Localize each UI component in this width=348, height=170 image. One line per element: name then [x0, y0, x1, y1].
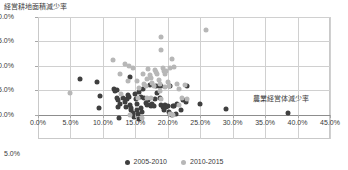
- data-point: [151, 104, 156, 109]
- data-point: [111, 58, 116, 63]
- x-axis-tick-label: 0.0%: [30, 119, 46, 127]
- x-axis-tick-label: 15.0%: [125, 119, 145, 127]
- data-point: [182, 83, 187, 88]
- x-axis-tick-label: 30.0%: [223, 119, 243, 127]
- y-axis-tickmark: [35, 66, 38, 67]
- y-axis-tickmark: [35, 17, 38, 18]
- data-point: [98, 93, 103, 98]
- data-point: [77, 76, 82, 81]
- plot-area: 農業経営体減少率: [38, 17, 330, 139]
- x-axis-tick-label: 20.0%: [158, 119, 178, 127]
- x-axis-tick-label: 40.0%: [288, 119, 308, 127]
- y-axis-tickmark: [35, 41, 38, 42]
- data-point: [172, 64, 177, 69]
- data-point: [185, 97, 190, 102]
- data-point: [159, 96, 164, 101]
- data-point: [170, 112, 175, 117]
- data-point: [134, 79, 139, 84]
- x-axis-tickmark: [38, 115, 39, 118]
- data-point: [96, 106, 101, 111]
- x-axis-tickmark: [298, 115, 299, 118]
- data-point: [112, 88, 117, 93]
- data-point: [143, 83, 148, 88]
- gridline-horizontal: [38, 17, 330, 18]
- data-point: [157, 88, 162, 93]
- data-point: [169, 57, 174, 62]
- data-point: [117, 116, 122, 121]
- x-axis-tickmark: [200, 115, 201, 118]
- data-point: [119, 92, 124, 97]
- data-point: [141, 71, 146, 76]
- x-axis-tickmark: [70, 115, 71, 118]
- legend-label: 2010-2015: [190, 158, 223, 166]
- legend-item-2010-2015[interactable]: 2010-2015: [181, 158, 223, 166]
- data-point: [146, 67, 151, 72]
- data-point: [130, 65, 135, 70]
- data-point: [128, 112, 133, 117]
- x-axis-tick-label: 25.0%: [190, 119, 210, 127]
- data-point: [159, 35, 164, 40]
- x-axis-tick-label: 45.0%: [320, 119, 340, 127]
- data-point: [137, 86, 142, 91]
- y-axis-tick-label: 0.0%: [0, 111, 14, 119]
- x-axis-tickmark: [330, 115, 331, 118]
- x-axis-tick-label: 5.0%: [62, 119, 78, 127]
- data-point: [286, 110, 291, 115]
- data-point: [204, 28, 209, 33]
- data-point: [157, 81, 162, 86]
- y-axis-tick-label: 5.0%: [0, 86, 14, 94]
- data-point: [177, 87, 182, 92]
- y-axis-tick-label-below-axis: 5.0%: [4, 150, 20, 158]
- gridline-horizontal: [38, 90, 330, 91]
- data-point: [163, 85, 168, 90]
- x-axis-tickmark: [135, 115, 136, 118]
- data-point: [95, 80, 100, 85]
- y-axis-title: 経営耕地面積減少率: [4, 2, 67, 11]
- data-point: [145, 96, 150, 101]
- data-point: [139, 109, 144, 114]
- legend-item-2005-2010[interactable]: 2005-2010: [125, 158, 167, 166]
- data-point: [177, 103, 182, 108]
- data-point: [67, 90, 72, 95]
- data-point: [115, 104, 120, 109]
- data-point: [126, 92, 131, 97]
- y-axis-tick-label: 15.0%: [0, 37, 14, 45]
- x-axis-tick-label: 10.0%: [93, 119, 113, 127]
- scatter-chart: 経営耕地面積減少率 農業経営体減少率 20.0%15.0%10.0%5.0%0.…: [0, 0, 348, 170]
- data-point: [224, 107, 229, 112]
- y-axis-tickmark: [35, 90, 38, 91]
- legend-marker-icon: [181, 160, 186, 165]
- y-axis-tick-label: 20.0%: [0, 13, 14, 21]
- y-axis-tick-label: 10.0%: [0, 62, 14, 70]
- x-axis-tickmark: [103, 115, 104, 118]
- data-point: [117, 71, 122, 76]
- x-axis-title: 農業経営体減少率: [253, 94, 309, 103]
- gridline-horizontal: [38, 41, 330, 42]
- x-axis-tickmark: [233, 115, 234, 118]
- data-point: [155, 72, 160, 77]
- legend-label: 2005-2010: [134, 158, 167, 166]
- x-axis-tickmark: [168, 115, 169, 118]
- data-point: [151, 83, 156, 88]
- data-point: [159, 47, 164, 52]
- legend-marker-icon: [125, 160, 130, 165]
- legend: 2005-2010 2010-2015: [0, 158, 348, 166]
- x-axis-tick-label: 35.0%: [255, 119, 275, 127]
- data-point: [198, 102, 203, 107]
- gridline-horizontal: [38, 66, 330, 67]
- data-point: [178, 107, 183, 112]
- data-point: [125, 79, 130, 84]
- data-point: [135, 95, 140, 100]
- x-axis-tickmark: [265, 115, 266, 118]
